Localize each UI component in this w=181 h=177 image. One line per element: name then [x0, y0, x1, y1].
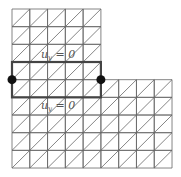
top-label-rest: = 0	[52, 48, 75, 61]
mesh-edge	[83, 150, 101, 168]
mesh-edge	[30, 27, 48, 45]
mesh-edge	[12, 27, 30, 45]
triangle-mesh	[12, 9, 172, 168]
mesh-edge	[101, 115, 119, 133]
mesh-edge	[48, 27, 66, 45]
bottom-label-u: u	[41, 99, 48, 112]
mesh-edge	[136, 97, 154, 115]
mesh-edge	[119, 80, 137, 98]
mesh-edge	[48, 80, 66, 98]
mesh-edge	[30, 133, 48, 151]
mesh-edge	[136, 133, 154, 151]
mesh-edge	[83, 9, 101, 27]
mesh-edge	[30, 80, 48, 98]
mesh-edge	[65, 115, 83, 133]
mesh-edge	[65, 80, 83, 98]
right-node	[96, 75, 105, 84]
left-node	[8, 75, 17, 84]
mesh-edge	[83, 97, 101, 115]
mesh-edge	[136, 150, 154, 168]
mesh-edge	[30, 150, 48, 168]
mesh-edge	[83, 44, 101, 62]
mesh-edge	[136, 115, 154, 133]
mesh-edge	[12, 44, 30, 62]
mesh-edge	[48, 150, 66, 168]
mesh-edge	[65, 133, 83, 151]
bottom-boundary-label: uy = 0	[41, 99, 75, 113]
mesh-edge	[83, 27, 101, 45]
mesh-edge	[65, 9, 83, 27]
mesh-edge	[12, 97, 30, 115]
mesh-edge	[119, 150, 137, 168]
mesh-diagram: uy = 0 uy = 0	[0, 0, 181, 177]
mesh-edge	[83, 133, 101, 151]
top-boundary-label: uy = 0	[41, 48, 75, 62]
mesh-edge	[101, 150, 119, 168]
mesh-edge	[101, 97, 119, 115]
mesh-edge	[12, 150, 30, 168]
mesh-edge	[83, 115, 101, 133]
mesh-edge	[48, 62, 66, 80]
mesh-edge	[30, 9, 48, 27]
mesh-edge	[48, 115, 66, 133]
mesh-edge	[65, 62, 83, 80]
mesh-edge	[119, 115, 137, 133]
mesh-edge	[48, 9, 66, 27]
mesh-edge	[12, 115, 30, 133]
mesh-edge	[119, 133, 137, 151]
mesh-edge	[30, 62, 48, 80]
mesh-edge	[65, 27, 83, 45]
mesh-edge	[154, 133, 172, 151]
mesh-edge	[12, 9, 30, 27]
mesh-edge	[48, 133, 66, 151]
mesh-edge	[154, 97, 172, 115]
mesh-edge	[12, 133, 30, 151]
mesh-edge	[30, 115, 48, 133]
mesh-edge	[101, 133, 119, 151]
mesh-edge	[154, 115, 172, 133]
mesh-edge	[136, 80, 154, 98]
mesh-edge	[65, 150, 83, 168]
bottom-label-rest: = 0	[52, 99, 75, 112]
mesh-edge	[154, 80, 172, 98]
mesh-edge	[119, 97, 137, 115]
mesh-edge	[154, 150, 172, 168]
top-label-u: u	[41, 48, 48, 61]
